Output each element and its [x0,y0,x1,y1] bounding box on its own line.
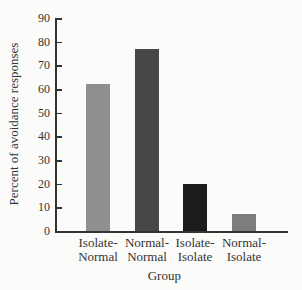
y-tick [55,65,62,67]
bar [135,49,159,231]
y-tick-label: 80 [38,36,50,48]
y-tick-label: 30 [38,154,50,166]
bar-chart: Percent of avoidance responses 010203040… [0,0,302,290]
y-tick-label: 90 [38,12,50,24]
bar [183,184,207,231]
y-tick [55,42,62,44]
y-tick-label: 40 [38,130,50,142]
y-tick [55,89,62,91]
y-tick-label: 20 [38,178,50,190]
y-axis [55,18,57,232]
y-tick [55,207,62,209]
y-tick [55,136,62,138]
y-tick [55,18,62,20]
y-tick [55,231,62,233]
bar [86,84,110,231]
y-tick-label: 10 [38,201,50,213]
y-tick [55,113,62,115]
x-axis [55,231,288,233]
y-tick-label: 70 [38,59,50,71]
y-tick-label: 0 [44,225,50,237]
y-tick [55,184,62,186]
x-tick-label: Normal-Isolate [214,236,274,264]
y-tick-label: 60 [38,83,50,95]
y-tick-label: 50 [38,107,50,119]
bar [232,214,256,231]
y-tick [55,160,62,162]
